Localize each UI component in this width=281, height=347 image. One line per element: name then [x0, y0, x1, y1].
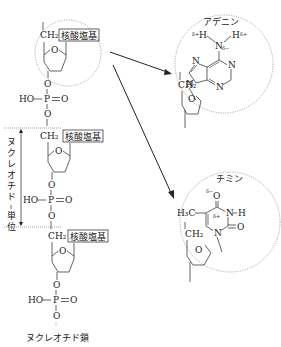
- svg-text:N: N: [226, 208, 234, 218]
- thymine-title: チミン: [216, 174, 243, 184]
- svg-text:N: N: [192, 56, 200, 66]
- svg-text:O: O: [213, 191, 220, 201]
- arrow-to-thymine: [113, 65, 174, 199]
- svg-text:CH₂: CH₂: [48, 231, 67, 241]
- chain-caption: ヌクレオチド鎖: [26, 332, 89, 343]
- svg-text:O: O: [53, 280, 60, 290]
- thymine-circle: [180, 172, 280, 272]
- thymine-structure: チミン δ− O δ+ N H O N H₃C CH₂ O: [177, 174, 246, 282]
- phosphate-1: O HO P O O: [19, 79, 68, 126]
- svg-text:O: O: [59, 246, 66, 256]
- dna-structure-diagram: CH₂ 核酸塩基 O O HO P O O ヌ ク レ オ チ ド: [0, 0, 281, 347]
- svg-text:O: O: [48, 180, 55, 190]
- svg-text:O: O: [237, 222, 244, 232]
- svg-text:O: O: [48, 211, 55, 221]
- svg-text:核酸塩基: 核酸塩基: [65, 131, 101, 142]
- svg-text:O: O: [195, 245, 202, 255]
- svg-text:H: H: [199, 30, 207, 40]
- svg-text:δ+: δ+: [240, 31, 247, 37]
- ch2-label: CH₂: [40, 30, 59, 40]
- svg-text:O: O: [70, 295, 77, 305]
- svg-text:N: N: [216, 82, 224, 92]
- svg-text:H: H: [238, 208, 246, 218]
- svg-text:H₃C: H₃C: [177, 208, 195, 218]
- svg-text:H: H: [232, 30, 240, 40]
- svg-text:CH₂: CH₂: [40, 131, 59, 141]
- svg-text:位: 位: [7, 221, 16, 232]
- svg-text:ク: ク: [7, 148, 16, 158]
- svg-text:P: P: [53, 295, 59, 305]
- svg-text:ド: ド: [7, 192, 16, 202]
- unit-label-char: ヌ: [7, 137, 16, 147]
- phosphate-3: O HO P O O: [28, 280, 77, 327]
- svg-text:レ: レ: [7, 159, 16, 169]
- nucleotide-unit-1: CH₂ 核酸塩基 O: [40, 22, 99, 78]
- svg-text:N: N: [228, 60, 236, 70]
- svg-text:O: O: [61, 94, 68, 104]
- svg-text:O: O: [44, 109, 51, 119]
- svg-text:O: O: [65, 195, 72, 205]
- svg-text:δ−: δ−: [222, 45, 229, 51]
- svg-text:δ+: δ+: [213, 213, 220, 219]
- svg-text:核酸塩基: 核酸塩基: [70, 231, 106, 242]
- arrow-to-adenine: [110, 52, 172, 75]
- svg-text:O: O: [188, 94, 195, 104]
- svg-text:単: 単: [7, 210, 16, 221]
- svg-text:CH₂: CH₂: [185, 229, 204, 239]
- adenine-title: アデニン: [203, 16, 239, 27]
- svg-text:O: O: [44, 79, 51, 89]
- svg-text:CH₂: CH₂: [178, 80, 197, 90]
- nucleotide-unit-2: CH₂ 核酸塩基 O: [40, 130, 103, 180]
- svg-text:P: P: [44, 94, 50, 104]
- phosphate-2: O HO P O O: [23, 180, 72, 229]
- svg-text:P: P: [48, 195, 54, 205]
- svg-text:HO: HO: [28, 295, 43, 305]
- adenine-structure: アデニン δ+ H δ+ H N δ− N N N N CH₂ O: [178, 16, 247, 128]
- svg-text:チ: チ: [7, 181, 16, 191]
- svg-text:HO: HO: [23, 195, 38, 205]
- nucleotide-unit-3: CH₂ 核酸塩基 O: [48, 230, 108, 280]
- base-label: 核酸塩基: [61, 30, 97, 41]
- svg-text:O: O: [53, 311, 60, 321]
- svg-text:HO: HO: [19, 94, 34, 104]
- svg-text:N: N: [214, 228, 222, 238]
- ring-oxygen: O: [51, 45, 58, 55]
- svg-text:O: O: [55, 146, 62, 156]
- svg-text:オ: オ: [7, 170, 16, 180]
